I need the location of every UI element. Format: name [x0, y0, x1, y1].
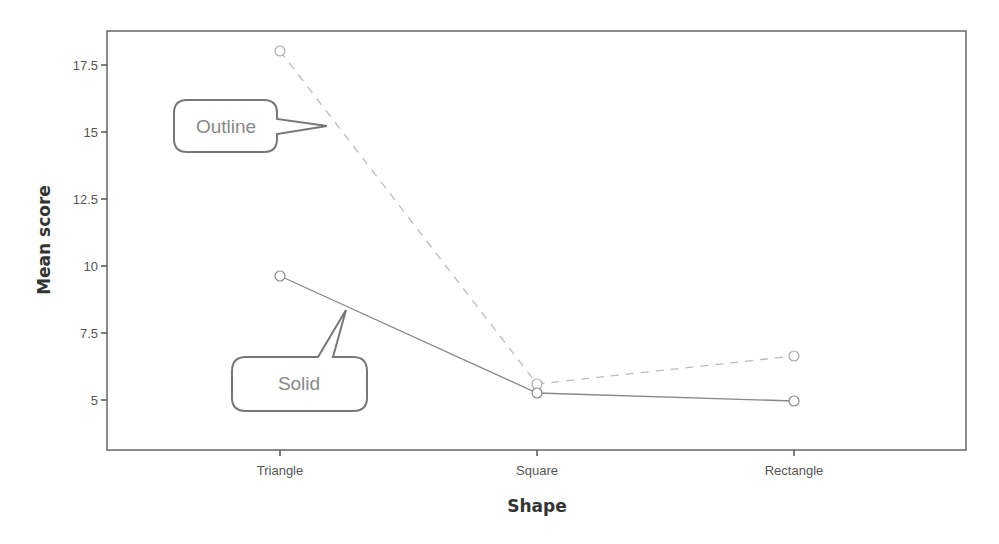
y-axis-title: Mean score [34, 185, 54, 295]
callout-label: Outline [196, 116, 256, 137]
y-tick-label: 10 [84, 259, 98, 274]
x-axis: Triangle Square Rectangle Shape [257, 450, 824, 516]
y-tick-label: 7.5 [80, 326, 98, 341]
solid-point-rectangle [789, 396, 799, 406]
x-tick-label: Square [516, 463, 558, 478]
outline-point-triangle [275, 46, 285, 56]
y-tick-label: 15 [84, 125, 98, 140]
y-tick-label: 12.5 [73, 192, 98, 207]
solid-point-triangle [275, 271, 285, 281]
solid-point-square [532, 388, 542, 398]
outline-point-rectangle [789, 351, 799, 361]
y-axis: 17.5 15 12.5 10 7.5 5 Mean score [34, 58, 107, 408]
y-tick-label: 17.5 [73, 58, 98, 73]
x-axis-title: Shape [507, 496, 567, 516]
x-tick-label: Triangle [257, 463, 303, 478]
y-tick-label: 5 [91, 393, 98, 408]
line-chart: 17.5 15 12.5 10 7.5 5 Mean score Triangl… [0, 0, 999, 544]
x-tick-label: Rectangle [765, 463, 824, 478]
callout-label: Solid [278, 373, 320, 394]
